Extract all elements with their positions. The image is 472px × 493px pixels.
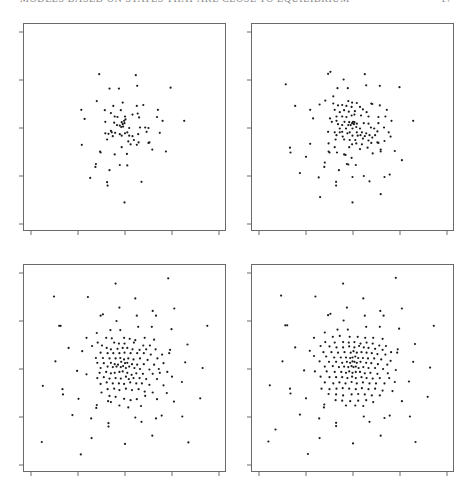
data-point (347, 329, 349, 331)
data-point (116, 116, 118, 118)
data-point (136, 315, 138, 317)
data-point (336, 329, 338, 331)
data-point (383, 315, 385, 317)
data-point (353, 341, 355, 343)
data-point (383, 417, 385, 419)
data-point (113, 388, 115, 390)
data-point (372, 343, 374, 345)
data-point (362, 108, 364, 110)
data-point (145, 378, 147, 380)
running-head: MODELS BASED ON STATES THAT ARE CLOSE TO… (20, 0, 452, 3)
data-point (100, 315, 102, 317)
data-point (131, 135, 133, 137)
data-point (328, 376, 330, 378)
data-point (156, 378, 158, 380)
data-point (110, 401, 112, 403)
data-point (348, 121, 350, 123)
data-point (341, 104, 343, 106)
data-point (342, 341, 344, 343)
data-point (365, 326, 367, 328)
data-point (120, 109, 122, 111)
data-point (274, 428, 276, 430)
data-point (319, 437, 321, 439)
data-point (379, 85, 381, 87)
data-point (334, 109, 336, 111)
data-point (355, 126, 357, 128)
data-point (81, 350, 83, 352)
data-point (379, 326, 381, 328)
data-point (373, 357, 375, 359)
data-point (305, 156, 307, 158)
data-point (133, 342, 135, 344)
data-point (372, 378, 374, 380)
data-point (401, 159, 403, 161)
data-point (367, 115, 369, 117)
data-point (156, 357, 158, 359)
scatter-plot (23, 23, 226, 231)
data-point (129, 381, 131, 383)
data-point (127, 357, 129, 359)
data-point (131, 363, 133, 365)
data-point (394, 381, 396, 383)
data-point (126, 362, 128, 364)
data-point (387, 372, 389, 374)
scatter-plot (23, 264, 226, 472)
data-point (329, 71, 331, 73)
data-point (396, 352, 398, 354)
data-point (332, 336, 334, 338)
data-point (359, 127, 361, 129)
data-point (101, 344, 103, 346)
data-point (139, 126, 141, 128)
data-point (351, 372, 353, 374)
data-point (100, 352, 102, 354)
data-point (107, 185, 109, 187)
data-point (379, 104, 381, 106)
data-point (303, 369, 305, 371)
data-point (100, 391, 102, 393)
data-point (380, 193, 382, 195)
data-point (118, 343, 120, 345)
data-point (348, 342, 350, 344)
data-point (335, 422, 337, 424)
data-point (343, 78, 345, 80)
data-point (125, 376, 127, 378)
data-point (120, 361, 122, 363)
data-point (134, 339, 136, 341)
data-point (142, 373, 144, 375)
data-point (146, 131, 148, 133)
data-point (184, 361, 186, 363)
data-point (118, 404, 120, 406)
data-point (81, 144, 83, 146)
data-point (332, 95, 334, 97)
data-point (395, 277, 397, 279)
data-point (318, 417, 320, 419)
data-point (379, 394, 381, 396)
data-point (334, 342, 336, 344)
data-point (354, 404, 356, 406)
data-point (325, 355, 327, 357)
data-point (335, 425, 337, 427)
data-point (62, 393, 64, 395)
data-point (370, 126, 372, 128)
data-point (347, 163, 349, 165)
data-point (382, 338, 384, 340)
data-point (162, 120, 164, 122)
data-point (142, 344, 144, 346)
data-point (159, 132, 161, 134)
data-point (338, 381, 340, 383)
scatter-panel-top-right (251, 23, 454, 231)
data-point (41, 441, 43, 443)
data-point (115, 366, 117, 368)
data-point (314, 295, 316, 297)
data-point (355, 371, 357, 373)
data-point (100, 367, 102, 369)
data-point (349, 400, 351, 402)
data-point (289, 388, 291, 390)
data-point (377, 363, 379, 365)
data-point (313, 355, 315, 357)
data-point (389, 415, 391, 417)
data-point (353, 121, 355, 123)
data-point (358, 367, 360, 369)
data-point (151, 149, 153, 151)
data-point (394, 150, 396, 152)
